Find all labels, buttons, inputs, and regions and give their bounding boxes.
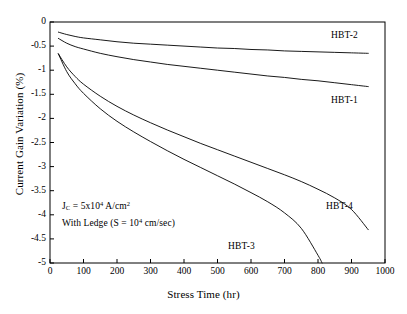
series-line-hbt-2 <box>58 32 368 53</box>
jc-units: A/cm <box>103 201 126 211</box>
series-line-hbt-3 <box>58 54 322 263</box>
jc-equals-value: = 5x10 <box>70 201 100 211</box>
x-tick-label: 1000 <box>365 266 405 276</box>
data-curves <box>58 32 368 263</box>
y-tick-label: -3 <box>8 161 46 171</box>
y-tick-label: -2.5 <box>8 137 46 147</box>
y-tick-label: -1.5 <box>8 88 46 98</box>
y-tick-label: -4 <box>8 209 46 219</box>
curve-label-hbt-3: HBT-3 <box>228 241 255 251</box>
y-tick-label: 0 <box>8 16 46 26</box>
curve-label-hbt-2: HBT-2 <box>331 30 358 40</box>
x-axis-title: Stress Time (hr) <box>0 288 407 300</box>
ledge-prefix: With Ledge (S = 10 <box>62 218 139 228</box>
y-tick-label: -4.5 <box>8 233 46 243</box>
jc-units-exponent: 2 <box>127 200 130 207</box>
annotation-current-density: JC = 5x104 A/cm2 <box>62 200 130 211</box>
ledge-suffix: cm/sec) <box>142 218 175 228</box>
series-line-hbt-1 <box>58 38 368 86</box>
y-tick-label: -1 <box>8 64 46 74</box>
annotation-ledge: With Ledge (S = 104 cm/sec) <box>62 217 175 228</box>
curve-label-hbt-4: HBT-4 <box>326 201 353 211</box>
y-tick-label: -3.5 <box>8 185 46 195</box>
curve-label-hbt-1: HBT-1 <box>331 95 358 105</box>
y-tick-label: -2 <box>8 112 46 122</box>
y-tick-label: -0.5 <box>8 40 46 50</box>
chart-figure: Current Gain Variation (%) Stress Time (… <box>0 0 407 314</box>
